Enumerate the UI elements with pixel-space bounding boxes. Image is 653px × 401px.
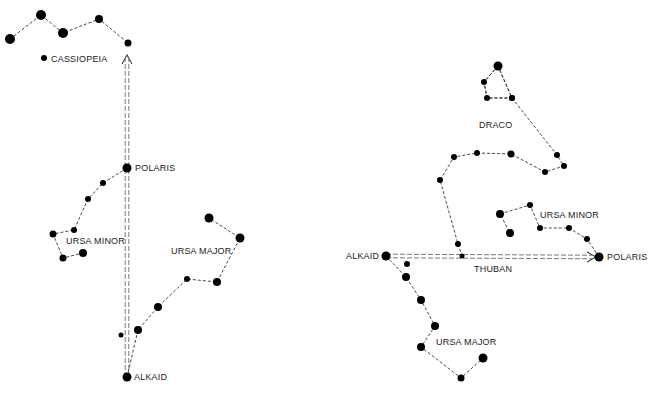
star-ursa-minor (584, 236, 590, 242)
star-draco (484, 95, 490, 101)
star-draco (455, 241, 461, 247)
star-ursa-major (382, 252, 391, 261)
stars (5, 10, 604, 382)
pointer-arrow-right (386, 254, 592, 255)
star-ursa-minor (50, 231, 57, 238)
label-cassiopeia: CASSIOPEIA (51, 54, 108, 64)
star-draco (451, 154, 457, 160)
star-ursa-minor (100, 180, 106, 186)
star-ursa-major (458, 375, 465, 382)
star-ursa-minor (566, 225, 572, 231)
label-ursa-major-right: URSA MAJOR (436, 337, 497, 347)
label-ursa-minor-right: URSA MINOR (540, 210, 599, 220)
label-alkaid-right: ALKAID (346, 251, 379, 261)
star-draco (437, 177, 443, 183)
pointer-arrows (122, 55, 596, 377)
star-ursa-major (417, 296, 425, 304)
star-cassiopeia (36, 10, 46, 20)
cassiopeia-lines (10, 15, 128, 43)
star-ursa-major (184, 276, 190, 282)
arrowhead-icon (122, 55, 132, 64)
label-alkaid-left: ALKAID (134, 372, 167, 382)
star-ursa-major (154, 303, 162, 311)
star-ursa-major (123, 373, 132, 382)
draco-head-lines (484, 66, 512, 98)
star-ursa-minor (123, 164, 132, 173)
star-ursa-minor (527, 202, 533, 208)
star-ursa-minor (71, 227, 77, 233)
star-ursa-major (205, 214, 214, 223)
star-draco (554, 152, 560, 158)
pointer-arrow-right (386, 258, 592, 259)
star-extra (404, 261, 410, 267)
star-cassiopeia (95, 15, 103, 23)
star-ursa-minor (496, 210, 504, 218)
star-ursa-major (213, 278, 221, 286)
star-draco (481, 79, 487, 85)
star-draco (494, 62, 503, 71)
star-ursa-major (479, 354, 488, 363)
label-polaris-right: POLARIS (607, 252, 647, 262)
star-ursa-minor (595, 253, 604, 262)
draco-head-loop (484, 66, 512, 98)
star-ursa-minor (60, 255, 67, 262)
star-cassiopeia (58, 28, 68, 38)
star-extra (119, 333, 124, 338)
left-constellation-lines (10, 15, 240, 377)
star-draco (508, 151, 515, 158)
star-cassiopeia (5, 34, 15, 44)
star-draco (561, 163, 567, 169)
label-draco: DRACO (479, 120, 513, 130)
star-ursa-minor (537, 225, 543, 231)
right-constellation-lines (386, 66, 599, 378)
star-ursa-minor (85, 196, 91, 202)
star-ursa-major (402, 273, 410, 281)
star-ursa-minor (506, 229, 514, 237)
star-ursa-major (236, 234, 245, 243)
star-draco (474, 150, 480, 156)
ursa-major-lines-left (127, 218, 240, 377)
star-cassiopeia-marker (41, 55, 47, 61)
star-ursa-minor (79, 249, 87, 257)
label-ursa-minor-left: URSA MINOR (66, 236, 125, 246)
star-draco (509, 95, 515, 101)
star-draco (460, 254, 465, 259)
star-ursa-major (134, 326, 142, 334)
label-ursa-major-left: URSA MAJOR (171, 246, 232, 256)
star-cassiopeia (125, 40, 132, 47)
star-ursa-major (431, 322, 439, 330)
ursa-major-lines-right (386, 256, 483, 378)
label-polaris-left: POLARIS (135, 163, 175, 173)
star-draco (542, 169, 548, 175)
label-thuban: THUBAN (474, 264, 512, 274)
star-ursa-major (417, 343, 425, 351)
